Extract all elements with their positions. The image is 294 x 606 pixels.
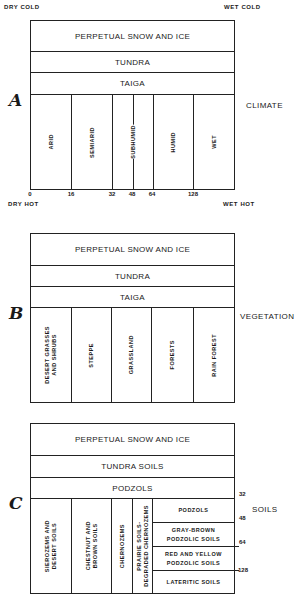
column-label: CHESTNUT AND BROWN SOILS (85, 521, 99, 570)
corner-label-wet-hot: WET HOT (223, 201, 255, 207)
axis-tick-128: 128 (188, 191, 198, 197)
column-sierozems: SIEROZEMS AND DESERT SOILS (31, 499, 72, 593)
axis-tick-48: 48 (129, 191, 136, 197)
band-taiga: TAIGA (31, 73, 234, 95)
band-snow-ice: PERPETUAL SNOW AND ICE (31, 21, 234, 52)
column-label: GRASSLAND (128, 335, 135, 374)
band-snow-ice: PERPETUAL SNOW AND ICE (31, 424, 234, 456)
column-label: DESERT GRASSES AND SHRUBS (44, 326, 58, 384)
panel-letter-a: A (9, 90, 22, 110)
right-tick-48: 48 (239, 515, 246, 521)
column-steppe: STEPPE (72, 308, 112, 402)
stack-lateritic: LATERITIC SOILS (153, 571, 234, 593)
corner-label-dry-hot: DRY HOT (8, 201, 39, 207)
stack-podzols: PODZOLS (153, 499, 234, 523)
soils-columns: SIEROZEMS AND DESERT SOILS CHESTNUT AND … (31, 499, 234, 593)
axis-tick-16: 16 (68, 191, 75, 197)
column-chestnut-brown: CHESTNUT AND BROWN SOILS (72, 499, 112, 593)
tick-mark-64 (234, 546, 239, 547)
soils-panel: PERPETUAL SNOW AND ICE TUNDRA SOILS PODZ… (30, 423, 235, 594)
column-wet: WET (194, 95, 234, 189)
vegetation-panel: PERPETUAL SNOW AND ICE TUNDRA TAIGA DESE… (30, 233, 235, 403)
climate-panel: PERPETUAL SNOW AND ICE TUNDRA TAIGA ARID… (30, 20, 235, 190)
podzolic-stack: PODZOLS GRAY-BROWN PODZOLIC SOILS RED AN… (153, 499, 234, 593)
column-label: SEMIARID (89, 127, 96, 158)
band-tundra-soils: TUNDRA SOILS (31, 456, 234, 478)
column-arid: ARID (31, 95, 72, 189)
column-label: PRAIRIE SOILS- DEGRADED CHERNOZEMS (136, 505, 150, 587)
band-podzols: PODZOLS (31, 478, 234, 499)
column-desert-grasses: DESERT GRASSES AND SHRUBS (31, 308, 72, 402)
column-label: RAIN FOREST (211, 334, 218, 377)
axis-tick-32: 32 (109, 191, 116, 197)
column-chernozems: CHERNOZEMS (112, 499, 133, 593)
column-rain-forest: RAIN FOREST (194, 308, 234, 402)
panel-label-climate: CLIMATE (246, 101, 283, 110)
panel-letter-c: C (9, 493, 23, 513)
column-label: HUMID (170, 132, 177, 153)
band-taiga: TAIGA (31, 287, 234, 308)
right-tick-64: 64 (239, 539, 246, 545)
column-label: CHERNOZEMS (119, 524, 126, 568)
band-tundra: TUNDRA (31, 52, 234, 73)
axis-tick-0: 0 (28, 191, 31, 197)
climate-columns: ARID SEMIARID SUBHUMID HUMID WET (31, 95, 234, 189)
column-humid: HUMID (154, 95, 194, 189)
column-label: SUBHUMID (130, 125, 137, 159)
column-label: ARID (48, 134, 55, 149)
column-label: WET (211, 135, 218, 149)
band-tundra: TUNDRA (31, 266, 234, 287)
band-snow-ice: PERPETUAL SNOW AND ICE (31, 234, 234, 266)
column-semiarid: SEMIARID (72, 95, 113, 189)
right-tick-32: 32 (239, 491, 246, 497)
right-tick-128: 128 (238, 567, 248, 573)
vegetation-columns: DESERT GRASSES AND SHRUBS STEPPE GRASSLA… (31, 308, 234, 402)
column-label: FORESTS (169, 340, 176, 369)
stack-gray-brown-podzolic: GRAY-BROWN PODZOLIC SOILS (153, 523, 234, 547)
panel-label-vegetation: VEGETATION (240, 312, 294, 321)
corner-label-dry-cold: DRY COLD (4, 4, 40, 10)
panel-letter-b: B (9, 303, 23, 323)
corner-label-wet-cold: WET COLD (224, 4, 261, 10)
column-label: STEPPE (88, 343, 95, 368)
column-forests: FORESTS (152, 308, 194, 402)
axis-tick-64: 64 (149, 191, 156, 197)
column-grassland: GRASSLAND (112, 308, 152, 402)
stack-red-yellow-podzolic: RED AND YELLOW PODZOLIC SOILS (153, 547, 234, 571)
panel-label-soils: SOILS (252, 505, 278, 514)
column-label: SIEROZEMS AND DESERT SOILS (44, 520, 58, 572)
column-prairie-soils: PRAIRIE SOILS- DEGRADED CHERNOZEMS (133, 499, 153, 593)
